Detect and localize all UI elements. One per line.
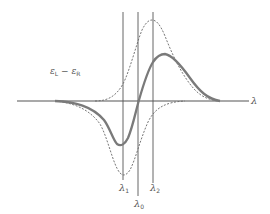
y-axis-label: εL − εR [50, 66, 80, 77]
lambda1-label: λ1 [118, 182, 129, 194]
lambda2-label: λ2 [149, 182, 160, 194]
dispersive-cd-curve [55, 54, 220, 145]
lambda0-label: λ0 [133, 198, 144, 210]
negative-absorption-band [55, 101, 185, 175]
cd-diagram: λ εL − εR λ1 λ0 λ2 [0, 0, 270, 214]
x-axis-label: λ [250, 95, 257, 106]
positive-absorption-band [95, 20, 220, 101]
